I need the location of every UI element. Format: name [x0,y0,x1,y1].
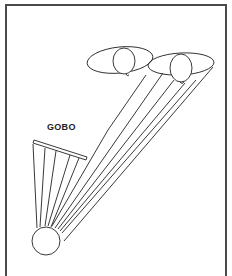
gobo-icon [33,140,87,160]
gobo-label: GOBO [47,122,76,132]
gobo-lighting-diagram [0,0,232,276]
blocked-rays [33,144,79,228]
person-left-icon [86,44,154,77]
light-source-icon [32,227,60,255]
person-right-icon [147,51,214,83]
light-rays [52,67,213,241]
